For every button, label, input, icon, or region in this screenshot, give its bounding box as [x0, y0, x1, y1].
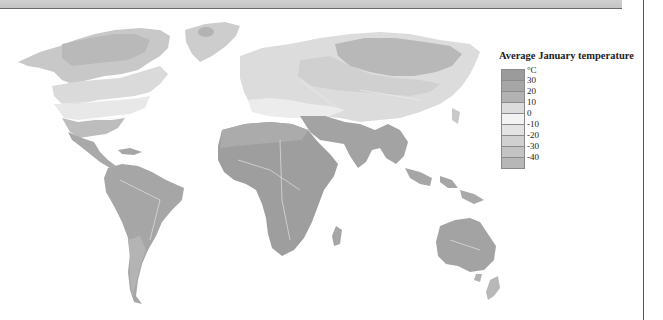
legend-unit: °C — [527, 65, 537, 75]
header-band — [0, 0, 622, 9]
legend-swatch — [501, 80, 525, 91]
legend-swatch — [501, 157, 525, 169]
legend-swatch — [501, 102, 525, 113]
legend-labels: 30 20 10 0 -10 -20 -30 -40 — [527, 75, 539, 163]
legend-label: -40 — [527, 152, 539, 163]
legend-title: Average January temperature — [499, 50, 645, 61]
oceania — [436, 218, 500, 300]
legend-label: 30 — [527, 75, 539, 86]
legend-label: -30 — [527, 141, 539, 152]
legend-swatch — [501, 113, 525, 124]
page-margin-rule — [643, 0, 644, 320]
legend-swatch — [501, 146, 525, 157]
world-temperature-map — [0, 12, 500, 320]
legend-swatches — [501, 69, 523, 169]
legend-label: -10 — [527, 119, 539, 130]
legend-label: 10 — [527, 97, 539, 108]
legend-swatch — [501, 69, 525, 80]
legend-label: 20 — [527, 86, 539, 97]
legend-swatch — [501, 124, 525, 135]
north-america — [18, 22, 240, 168]
south-america — [104, 164, 184, 304]
map-legend: Average January temperature °C 30 20 10 … — [500, 50, 645, 65]
legend-swatch — [501, 91, 525, 102]
legend-label: -20 — [527, 130, 539, 141]
legend-swatch — [501, 135, 525, 146]
legend-label: 0 — [527, 108, 539, 119]
